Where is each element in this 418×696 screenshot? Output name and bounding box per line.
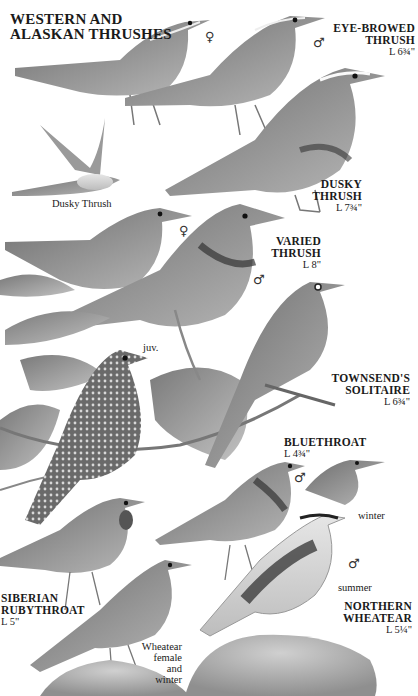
species-length: L 5¼" [343, 624, 412, 635]
caption-dusky-thrush-flight: Dusky Thrush [52, 198, 112, 209]
female-symbol: ♀ [179, 224, 189, 238]
plate-title-line1: WESTERN AND [10, 12, 172, 27]
label-bluethroat: BLUETHROAT L 4¾" [284, 436, 366, 459]
species-length: L 6¾" [332, 396, 410, 407]
species-name: EYE-BROWED [333, 22, 415, 34]
male-symbol: ♂ [313, 36, 325, 50]
caption-juvenile: juv. [143, 342, 158, 353]
species-name: SOLITAIRE [332, 384, 410, 396]
caption-line: female and [140, 652, 182, 674]
bluethroat-winter-head [305, 460, 385, 505]
caption-bluethroat-winter: winter [358, 510, 385, 521]
field-guide-plate: WESTERN AND ALASKAN THRUSHES ♀ ♂ EYE-BRO… [0, 0, 418, 696]
label-townsends-solitaire: TOWNSEND'S SOLITAIRE L 6¾" [332, 372, 410, 407]
species-name: THRUSH [271, 247, 321, 259]
label-varied-thrush: VARIED THRUSH L 8" [271, 235, 321, 270]
species-length: L 6¾" [333, 46, 415, 57]
male-symbol: ♂ [294, 471, 306, 485]
female-symbol: ♀ [205, 30, 215, 44]
species-name: DUSKY [312, 178, 362, 190]
label-northern-wheatear: NORTHERN WHEATEAR L 5¼" [343, 600, 412, 635]
species-length: L 7¾" [312, 202, 362, 213]
species-length: L 8" [271, 259, 321, 270]
species-name: TOWNSEND'S [332, 372, 410, 384]
species-name: RUBYTHROAT [1, 604, 85, 616]
label-siberian-rubythroat: SIBERIAN RUBYTHROAT L 5" [1, 592, 85, 627]
species-name: NORTHERN [343, 600, 412, 612]
species-name: BLUETHROAT [284, 436, 366, 448]
species-name: WHEATEAR [343, 612, 412, 624]
species-name: SIBERIAN [1, 592, 85, 604]
species-length: L 4¾" [284, 448, 366, 459]
caption-wheatear-female-winter: Wheatear female and winter [140, 641, 182, 685]
plate-title: WESTERN AND ALASKAN THRUSHES [10, 12, 172, 42]
caption-wheatear-summer: summer [338, 582, 372, 593]
species-name: VARIED [271, 235, 321, 247]
plate-title-line2: ALASKAN THRUSHES [10, 27, 172, 42]
species-name: THRUSH [333, 34, 415, 46]
label-eye-browed-thrush: EYE-BROWED THRUSH L 6¾" [333, 22, 415, 57]
species-name: THRUSH [312, 190, 362, 202]
male-symbol: ♂ [348, 557, 360, 571]
caption-line: winter [140, 674, 182, 685]
caption-line: Wheatear [140, 641, 182, 652]
dusky-thrush-flight [12, 118, 120, 196]
male-symbol: ♂ [253, 273, 265, 287]
label-dusky-thrush: DUSKY THRUSH L 7¾" [312, 178, 362, 213]
species-length: L 5" [1, 616, 85, 627]
